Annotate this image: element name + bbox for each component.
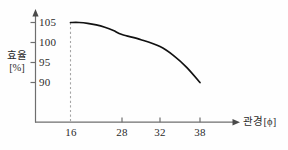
efficiency-curve — [71, 22, 201, 82]
y-axis-arrow-icon — [32, 9, 38, 17]
x-tick-label-28: 28 — [116, 127, 127, 138]
y-axis-title-line1: 효율 — [2, 50, 32, 62]
x-tick-label-32: 32 — [154, 127, 165, 138]
y-tick-label-90: 90 — [39, 77, 50, 88]
x-axis-arrow-icon — [233, 119, 241, 125]
x-tick-label-16: 16 — [65, 127, 76, 138]
x-tick-label-38: 38 — [194, 127, 205, 138]
y-tick-label-95: 95 — [39, 57, 50, 68]
y-axis-title: 효율 [%] — [2, 50, 32, 74]
y-axis-title-line2: [%] — [2, 62, 32, 74]
y-tick-label-100: 100 — [39, 37, 56, 48]
x-tick-marks — [122, 118, 200, 123]
y-tick-label-105: 105 — [39, 17, 56, 28]
efficiency-vs-diameter-chart: 105 100 95 90 16 28 32 38 효율 [%] 관경[ϕ] — [0, 0, 288, 150]
x-axis-title: 관경[ϕ] — [243, 117, 277, 128]
